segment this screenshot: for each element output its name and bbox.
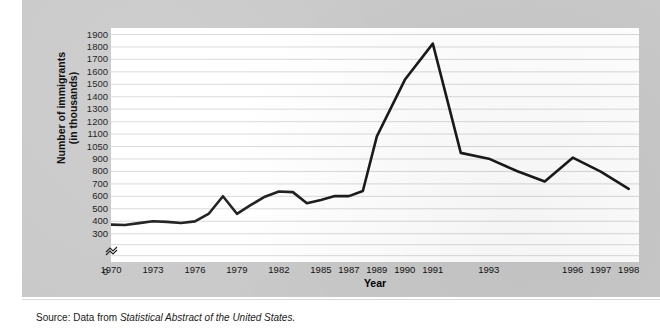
x-tick-label: 1979 <box>226 264 247 275</box>
y-tick-label: 1700 <box>87 54 108 64</box>
x-axis-title: Year <box>111 277 639 289</box>
x-tick-label: 1970 <box>100 264 121 275</box>
x-tick-label: 1993 <box>478 264 499 275</box>
figure-panel: Number of immigrants (in thousands) 1900… <box>22 0 660 297</box>
x-tick-label: 1997 <box>590 264 611 275</box>
y-tick-label: 1600 <box>87 67 108 77</box>
caption-divider <box>22 299 660 300</box>
source-title: Statistical Abstract of the United State… <box>120 312 295 323</box>
y-axis-tick-labels: 1900180017001600150014001300120011001050… <box>66 0 108 297</box>
y-tick-label: 600 <box>92 191 108 201</box>
y-tick-label: 700 <box>92 179 108 189</box>
x-tick-label: 1987 <box>338 264 359 275</box>
page-left-margin <box>0 0 22 332</box>
figure-page: Number of immigrants (in thousands) 1900… <box>0 0 660 332</box>
x-tick-label: 1985 <box>310 264 331 275</box>
y-tick-label: 900 <box>92 154 108 164</box>
x-tick-label: 1982 <box>268 264 289 275</box>
y-tick-label: 1400 <box>87 92 108 102</box>
x-tick-label: 1976 <box>184 264 205 275</box>
y-tick-label: 800 <box>92 166 108 176</box>
data-line-series <box>111 28 639 262</box>
y-tick-label: 1050 <box>87 142 108 152</box>
y-tick-label: 1500 <box>87 79 108 89</box>
y-tick-label: 1100 <box>88 129 108 139</box>
y-tick-label: 1800 <box>87 42 108 52</box>
data-line <box>111 44 629 225</box>
x-tick-label: 1996 <box>562 264 583 275</box>
axis-break-icon <box>105 243 118 257</box>
x-tick-label: 1989 <box>366 264 387 275</box>
x-tick-label: 1991 <box>422 264 443 275</box>
plot-area <box>111 28 639 262</box>
y-tick-label: 500 <box>92 204 108 214</box>
y-tick-label: 300 <box>92 229 108 239</box>
y-tick-label: 1200 <box>87 117 108 127</box>
x-tick-label: 1973 <box>142 264 163 275</box>
x-tick-label: 1998 <box>618 264 639 275</box>
source-caption: Source: Data from Statistical Abstract o… <box>36 312 295 323</box>
source-prefix: Source: Data from <box>36 312 120 323</box>
y-tick-label: 1900 <box>87 30 108 40</box>
y-tick-label: 400 <box>92 216 108 226</box>
x-tick-label: 1990 <box>394 264 415 275</box>
y-tick-label: 1300 <box>87 104 108 114</box>
